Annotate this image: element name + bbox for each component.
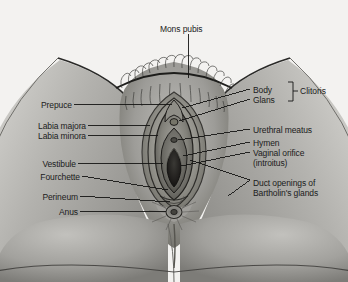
label-vestibule: Vestibule — [0, 159, 76, 169]
label-vaginal-orifice: Vaginal orifice — [253, 148, 304, 158]
label-bartholins-glands: Bartholin's glands — [253, 188, 318, 198]
label-perineum: Perineum — [0, 192, 78, 202]
label-clitoris-group: Clitoris — [300, 86, 326, 96]
label-introitus: (introitus) — [253, 158, 287, 168]
label-urethral-meatus: Urethral meatus — [253, 125, 312, 135]
label-clitoris-body: Body — [253, 85, 272, 95]
label-mons-pubis: Mons pubis — [160, 24, 202, 34]
label-fourchette: Fourchette — [0, 172, 80, 182]
label-prepuce: Prepuce — [0, 100, 72, 110]
anatomy-figure: Mons pubis Prepuce Labia majora Labia mi… — [0, 0, 348, 282]
label-labia-majora: Labia majora — [0, 121, 86, 131]
label-anus: Anus — [0, 207, 78, 217]
label-clitoris-glans: Glans — [253, 95, 275, 105]
label-duct-openings: Duct openings of — [253, 178, 315, 188]
vulva-illustration — [0, 0, 348, 282]
label-hymen: Hymen — [253, 138, 279, 148]
label-labia-minora: Labia minora — [0, 131, 86, 141]
